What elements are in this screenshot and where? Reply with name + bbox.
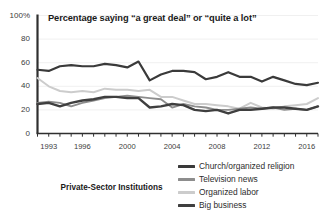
x-tick-label: 2004 (164, 142, 181, 151)
y-tick-label: 20 (0, 105, 34, 114)
axis-lines (37, 15, 319, 134)
chart-title: Percentage saying “a great deal” or “qui… (48, 13, 256, 23)
gridlines (38, 16, 319, 110)
legend-swatch-icon (178, 178, 195, 180)
legend-item: Television news (178, 173, 325, 186)
legend-item: Organized labor (178, 186, 325, 199)
legend-swatch-icon (178, 191, 195, 194)
legend-label: Big business (199, 201, 247, 209)
chart-legend: Church/organized religionTelevision news… (178, 160, 325, 212)
x-axis-tick-labels: 1993199620002004200820122016 (0, 138, 325, 154)
legend-label: Church/organized religion (199, 162, 294, 170)
x-tick-label: 2012 (253, 142, 270, 151)
y-tick-label: 100% (0, 11, 34, 20)
chart-figure: Percentage saying “a great deal” or “qui… (0, 0, 325, 216)
panel-label: Private-Sector Institutions (44, 183, 179, 192)
x-tick-label: 2016 (298, 142, 315, 151)
y-tick-label: 40 (0, 81, 34, 90)
legend-label: Television news (199, 175, 258, 183)
series-lines (38, 62, 319, 114)
legend-item: Big business (178, 199, 325, 212)
series-line (38, 62, 319, 86)
legend-swatch-icon (178, 165, 195, 168)
y-tick-label: 80 (0, 34, 34, 43)
x-tick-label: 1993 (40, 142, 57, 151)
y-axis-tick-labels: 100%806040200 (0, 0, 34, 216)
x-tick-label: 1996 (74, 142, 91, 151)
legend-item: Church/organized religion (178, 160, 325, 173)
y-tick-label: 0 (0, 129, 34, 138)
legend-swatch-icon (178, 204, 195, 207)
y-tick-label: 60 (0, 58, 34, 67)
legend-label: Organized labor (199, 188, 259, 196)
x-tick-label: 2008 (209, 142, 226, 151)
x-tick-label: 2000 (119, 142, 136, 151)
